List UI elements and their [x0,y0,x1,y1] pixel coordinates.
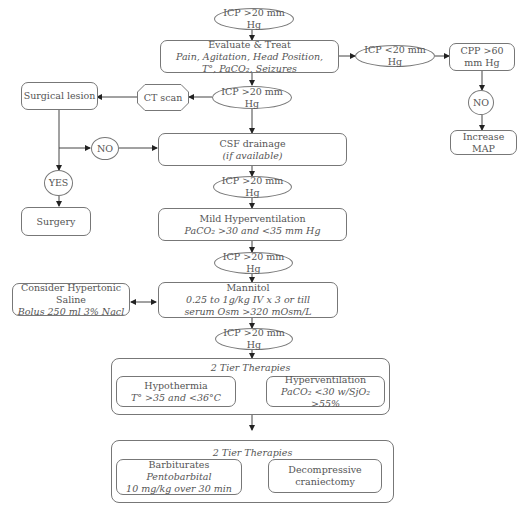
hyperventilation-box: Hyperventilation PaCO₂ <30 w/SjO₂ >55% [266,376,385,407]
icp-node-2: ICP >20 mm Hg [212,86,292,109]
barbiturates-box: Barbiturates Pentobarbital 10 mg/kg over… [116,459,242,495]
cpp-no-label: NO [473,97,489,109]
icp-5-label: ICP >20 mm Hg [216,327,292,351]
icp-low-label: ICP <20 mm Hg [356,44,434,68]
craniectomy-line2: craniectomy [295,476,355,488]
icp-2-label: ICP >20 mm Hg [213,86,291,110]
hypertonic-subtitle: Bolus 250 ml 3% Nacl [18,306,124,318]
lesion-yes-node: YES [44,170,73,196]
cpp-label: CPP >60 mm Hg [450,45,514,69]
csf-subtitle: (if available) [222,150,282,162]
hypothermia-title: Hypothermia [144,380,207,392]
mannitol-line2: serum Osm >320 mOsm/L [184,306,311,318]
hypertonic-saline-box: Consider Hypertonic Saline Bolus 250 ml … [12,283,130,316]
lesion-yes-label: YES [49,177,69,189]
icp-node-3: ICP >20 mm Hg [213,176,292,198]
barbiturates-title: Barbiturates [149,459,210,471]
tier2-title: 2 Tier Therapies [112,447,393,458]
icp-start-node: ICP >20 mm Hg [214,8,294,30]
hypothermia-subtitle: T° >35 and <36°C [131,392,221,404]
barbiturates-line2: 10 mg/kg over 30 min [126,483,232,495]
ct-scan-label: CT scan [144,92,183,104]
surgery-label: Surgery [37,216,76,228]
tier1-title: 2 Tier Therapies [112,362,389,373]
surgery-box: Surgery [21,207,91,236]
evaluate-line2: T°, PaCO₂, Seizures [202,63,297,75]
mannitol-title: Mannitol [226,282,269,294]
icp-node-5: ICP >20 mm Hg [215,328,293,350]
cpp-no-node: NO [468,90,494,115]
mild-hv-title: Mild Hyperventilation [199,213,305,225]
surgical-lesion-label: Surgical lesion [24,90,96,102]
hyperventilation-subtitle: PaCO₂ <30 w/SjO₂ >55% [267,386,384,410]
evaluate-line1: Pain, Agitation, Head Position, [176,51,323,63]
icp-4-label: ICP >20 mm Hg [215,251,292,275]
mild-hyperventilation-box: Mild Hyperventilation PaCO₂ >30 and <35 … [158,208,347,241]
hypertonic-title: Consider Hypertonic Saline [13,282,129,306]
icp-3-label: ICP >20 mm Hg [214,175,291,199]
lesion-no-label: NO [97,143,113,155]
evaluate-title: Evaluate & Treat [208,39,291,51]
barbiturates-line1: Pentobarbital [146,471,211,483]
csf-drainage-box: CSF drainage (if available) [158,133,347,166]
hypothermia-box: Hypothermia T° >35 and <36°C [116,376,236,407]
ct-scan-node: CT scan [137,84,189,111]
icp-node-4: ICP >20 mm Hg [214,252,293,274]
mild-hv-subtitle: PaCO₂ >30 and <35 mm Hg [185,225,321,237]
increase-map-label: Increase MAP [451,131,516,155]
csf-title: CSF drainage [219,138,285,150]
icp-low-node: ICP <20 mm Hg [355,45,435,67]
cpp-box: CPP >60 mm Hg [449,43,515,71]
hyperventilation-title: Hyperventilation [285,374,366,386]
icp-start-label: ICP >20 mm Hg [215,7,293,31]
increase-map-box: Increase MAP [450,130,517,155]
evaluate-treat-box: Evaluate & Treat Pain, Agitation, Head P… [160,40,339,73]
craniectomy-line1: Decompressive [288,464,361,476]
mannitol-line1: 0.25 to 1g/kg IV x 3 or till [186,294,310,306]
mannitol-box: Mannitol 0.25 to 1g/kg IV x 3 or till se… [158,282,338,318]
decompressive-craniectomy-box: Decompressive craniectomy [268,459,382,493]
lesion-no-node: NO [91,137,119,160]
surgical-lesion-box: Surgical lesion [21,82,98,110]
